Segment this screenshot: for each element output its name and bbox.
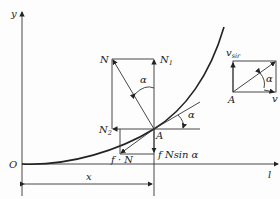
diagram-figure: y l O x N N1 N2 α α A f · N f Nsin α α A… — [0, 0, 280, 199]
force-N-arrow — [113, 60, 154, 129]
angle-arc-1 — [135, 87, 154, 94]
angle-arc-2 — [178, 115, 183, 128]
force-N-label: N — [99, 54, 110, 65]
velocity-vsir-label: vsir — [226, 47, 241, 60]
force-N2-label: N2 — [98, 124, 112, 137]
angle-label-2: α — [188, 109, 195, 120]
angle-arc-3 — [260, 73, 265, 88]
friction-label: f · N — [110, 154, 134, 165]
point-A-label: A — [155, 130, 163, 141]
friction-arrow — [121, 129, 154, 153]
friction-vertical-label: f Nsin α — [157, 149, 199, 160]
x-axis-label: l — [268, 169, 271, 180]
angle-label-3: α — [266, 73, 273, 84]
dimension-x-label: x — [86, 171, 92, 182]
force-N1-label: N1 — [159, 54, 173, 67]
angle-label-1: α — [140, 74, 147, 85]
y-axis-label: y — [10, 8, 17, 19]
velocity-v-label: v — [272, 93, 278, 104]
force-diagram: y l O x N N1 N2 α α A f · N f Nsin α α A… — [0, 0, 280, 199]
velocity-A-label: A — [227, 94, 235, 105]
origin-label: O — [9, 159, 17, 170]
trajectory-curve — [22, 27, 224, 164]
